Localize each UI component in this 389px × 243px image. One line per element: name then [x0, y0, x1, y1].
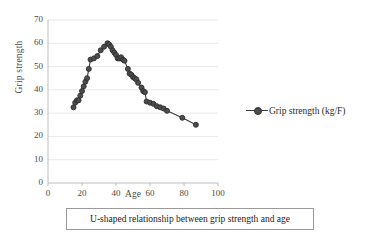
data-point-marker	[95, 54, 100, 59]
plot-svg	[0, 0, 389, 200]
data-point-marker	[193, 122, 198, 127]
chart-area: 010203040506070 020406080100 Grip streng…	[0, 0, 389, 200]
line-with-circle-marker-icon	[246, 105, 268, 116]
y-tick-label: 50	[21, 61, 43, 71]
data-point-marker	[165, 108, 170, 113]
series-line-grip-strength	[74, 43, 196, 125]
data-point-marker	[142, 90, 147, 95]
data-point-marker	[86, 66, 91, 71]
y-axis-title: Grip strength	[14, 27, 24, 107]
y-tick-label: 40	[21, 84, 43, 94]
caption-text: U-shaped relationship between grip stren…	[90, 214, 290, 224]
data-point-marker	[85, 76, 90, 81]
series-markers-grip-strength	[71, 41, 198, 128]
y-tick-label: 10	[21, 154, 43, 164]
data-point-marker	[180, 115, 185, 120]
y-tick-label: 30	[21, 107, 43, 117]
y-tick-label: 20	[21, 130, 43, 140]
data-point-marker	[122, 58, 127, 63]
caption-box: U-shaped relationship between grip stren…	[66, 208, 314, 230]
figure-root: 010203040506070 020406080100 Grip streng…	[0, 0, 389, 243]
x-axis-title: Age	[48, 189, 218, 199]
gridlines	[48, 20, 218, 160]
legend-dot	[254, 107, 262, 115]
data-point-marker	[136, 80, 141, 85]
legend: Grip strength (kg/F)	[246, 105, 346, 116]
y-tick-label: 60	[21, 37, 43, 47]
legend-entry-label: Grip strength (kg/F)	[268, 106, 346, 116]
y-tick-label: 70	[21, 14, 43, 24]
y-tick-label: 0	[21, 177, 43, 187]
